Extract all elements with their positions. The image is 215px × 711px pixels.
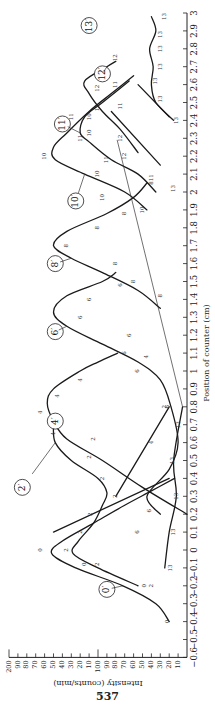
position-tick-label: 2.8: [189, 42, 199, 56]
intensity-tick-label: 40: [147, 660, 155, 668]
position-tick-label: 0: [189, 547, 199, 552]
position-tick-label: 2: [189, 189, 199, 194]
curve-label-arrow: [32, 443, 55, 474]
position-tick-label: 1.1: [189, 346, 199, 360]
position-tick-label: 1.2: [189, 328, 199, 342]
data-point-label: 11: [112, 81, 118, 88]
position-tick-label: 0.5: [189, 454, 199, 468]
data-point-label: 13: [170, 184, 176, 191]
data-point-label: 10: [99, 193, 105, 200]
data-point-label: 2: [148, 584, 154, 588]
position-tick-label: 0.6: [189, 436, 199, 450]
position-tick-label: 2.3: [189, 132, 199, 146]
data-point-label: 13: [173, 116, 179, 123]
data-point-label: 8: [63, 243, 69, 247]
data-point-label: 6: [134, 369, 140, 373]
data-point-label: 4: [37, 410, 43, 414]
position-tick-label: 1.3: [189, 311, 199, 325]
data-point-label: 2: [112, 495, 118, 499]
position-tick-label: 0.1: [189, 525, 199, 539]
data-point-label: 2: [86, 455, 92, 459]
data-point-label: 12: [94, 104, 100, 111]
curve-label-text: 4′: [50, 417, 60, 425]
position-tick-label: 0.8: [189, 400, 199, 414]
intensity-tick-label: 50: [138, 660, 146, 668]
position-tick-label: 1.6: [189, 257, 199, 271]
data-point-label: 6: [126, 333, 132, 337]
line-4-tail: [116, 407, 169, 497]
data-point-label: 10: [41, 152, 47, 159]
data-point-label: 8: [112, 261, 118, 265]
curve-7: [84, 61, 138, 152]
position-tick-label: 2.7: [189, 60, 199, 74]
curve-label-text: 13′: [84, 19, 94, 32]
data-point-label: 13: [175, 421, 181, 428]
position-tick-label: 1.5: [189, 275, 199, 289]
data-point-label: 6: [86, 297, 92, 301]
position-tick-label: 0.9: [189, 382, 199, 396]
data-point-label: 13: [173, 492, 179, 499]
data-point-label: 12: [112, 54, 118, 61]
position-tick-label: 0.4: [189, 472, 199, 486]
position-tick-label: 0.3: [189, 490, 199, 504]
data-point-label: 2: [90, 437, 96, 441]
data-point-label: 8: [121, 211, 127, 215]
position-tick-label: 0.7: [189, 418, 199, 432]
data-point-label: 13: [170, 528, 176, 535]
intensity-axis-title: Intensity (counts/min): [53, 679, 143, 688]
data-point-label: 13: [157, 30, 163, 37]
data-point-label: 10: [94, 170, 100, 177]
position-tick-label: 2.4: [189, 114, 199, 128]
intensity-tick-label: 10: [85, 660, 93, 668]
data-point-label: 6: [117, 283, 123, 287]
position-tick-label: −0.1: [189, 558, 199, 579]
intensity-tick-label: 20: [76, 660, 84, 668]
data-point-label: 8: [130, 279, 136, 283]
data-point-label: 13: [167, 564, 173, 571]
data-point-label: 2: [94, 563, 100, 567]
data-point-label: 4: [50, 431, 56, 435]
intensity-tick-label: 40: [58, 660, 66, 668]
data-point-label: 2: [87, 512, 93, 516]
intensity-tick-label: 10: [174, 660, 182, 668]
intensity-tick-label: 100: [94, 660, 102, 672]
data-point-label: 13: [157, 45, 163, 52]
intensity-tick-label: 80: [111, 660, 119, 668]
data-point-label: 11: [117, 103, 123, 110]
curve-label-text: 2′: [17, 483, 27, 491]
intensity-tick-label: 30: [156, 660, 164, 668]
position-axis-title: Position of counter (cm): [202, 304, 211, 401]
curve-2: [47, 353, 187, 514]
intensity-tick-label: 200: [5, 660, 13, 672]
data-point-label: 6: [121, 351, 127, 355]
data-point-label: 0: [164, 619, 170, 623]
position-tick-label: 1.9: [189, 203, 199, 217]
intensity-tick-label: 60: [129, 660, 137, 668]
line-2-tail: [54, 478, 170, 532]
data-point-label: 13: [152, 77, 158, 84]
data-point-label: 11: [148, 174, 154, 181]
intensity-tick-label: 90: [14, 660, 22, 668]
data-point-label: 10: [86, 113, 92, 120]
data-point-label: 11: [77, 135, 83, 142]
data-point-label: 13: [169, 457, 175, 464]
data-point-label: 10: [139, 206, 145, 213]
data-point-label: 4: [143, 354, 149, 358]
data-point-label: 0: [81, 562, 87, 566]
curve-0: [51, 478, 174, 621]
data-point-label: 8: [94, 226, 100, 230]
intensity-tick-label: 20: [165, 660, 173, 668]
intensity-tick-label: 30: [67, 660, 75, 668]
data-point-label: 4: [148, 440, 154, 444]
data-point-label: 10: [86, 129, 92, 136]
data-point-label: 8: [157, 294, 163, 298]
page-number: 537: [0, 690, 215, 703]
position-tick-label: 2.6: [189, 78, 199, 92]
data-markers: 0000222222222244444466666666688888881010…: [37, 13, 181, 624]
data-point-label: 13: [157, 63, 163, 70]
data-point-label: 4: [54, 394, 60, 398]
data-point-label: 13: [157, 95, 163, 102]
intensity-tick-label: 90: [103, 660, 111, 668]
data-point-label: 0: [141, 584, 147, 588]
curve-3: [54, 273, 179, 515]
